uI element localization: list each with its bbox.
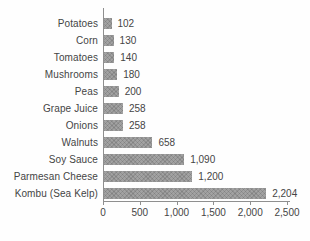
bar-row: Peas200 xyxy=(0,83,310,100)
category-label: Walnuts xyxy=(0,137,98,148)
bar-row: Kombu (Sea Kelp)2,204 xyxy=(0,185,310,202)
category-label: Peas xyxy=(0,86,98,97)
bar xyxy=(104,154,184,165)
bar-track: 258 xyxy=(104,120,310,131)
value-label: 258 xyxy=(129,103,146,114)
bar xyxy=(104,35,114,46)
y-axis-line xyxy=(103,8,104,201)
category-label: Soy Sauce xyxy=(0,154,98,165)
bar xyxy=(104,86,119,97)
x-tick-mark xyxy=(213,201,214,205)
x-tick-mark xyxy=(140,201,141,205)
x-tick-mark xyxy=(287,201,288,205)
bar-row: Tomatoes140 xyxy=(0,49,310,66)
value-label: 180 xyxy=(123,69,140,80)
bar-row: Parmesan Cheese1,200 xyxy=(0,168,310,185)
bar-track: 102 xyxy=(104,18,310,29)
value-label: 102 xyxy=(118,18,135,29)
category-label: Parmesan Cheese xyxy=(0,171,98,182)
x-tick-label: 2,500 xyxy=(274,207,299,218)
bar-rows: Potatoes102Corn130Tomatoes140Mushrooms18… xyxy=(0,15,310,202)
bar-track: 180 xyxy=(104,69,310,80)
bar xyxy=(104,171,192,182)
x-tick-label: 1,000 xyxy=(164,207,189,218)
value-label: 200 xyxy=(125,86,142,97)
bar xyxy=(104,69,117,80)
category-label: Mushrooms xyxy=(0,69,98,80)
bar-track: 2,204 xyxy=(104,188,310,199)
bar-row: Potatoes102 xyxy=(0,15,310,32)
x-tick-mark xyxy=(177,201,178,205)
value-label: 130 xyxy=(120,35,137,46)
bar xyxy=(104,103,123,114)
x-tick-label: 500 xyxy=(131,207,148,218)
category-label: Grape Juice xyxy=(0,103,98,114)
value-label: 2,204 xyxy=(272,188,297,199)
bar xyxy=(104,137,152,148)
bar-track: 1,090 xyxy=(104,154,310,165)
bar-track: 130 xyxy=(104,35,310,46)
bar xyxy=(104,120,123,131)
bar-track: 200 xyxy=(104,86,310,97)
bar-row: Soy Sauce1,090 xyxy=(0,151,310,168)
bar-chart: Potatoes102Corn130Tomatoes140Mushrooms18… xyxy=(0,0,310,241)
bar-row: Onions258 xyxy=(0,117,310,134)
value-label: 140 xyxy=(120,52,137,63)
bar-track: 1,200 xyxy=(104,171,310,182)
bar-row: Walnuts658 xyxy=(0,134,310,151)
x-axis-line xyxy=(103,201,290,202)
bar xyxy=(104,188,266,199)
x-tick-mark xyxy=(103,201,104,205)
x-tick-label: 0 xyxy=(100,207,106,218)
bar-row: Mushrooms180 xyxy=(0,66,310,83)
category-label: Onions xyxy=(0,120,98,131)
x-tick-label: 1,500 xyxy=(201,207,226,218)
bar-track: 658 xyxy=(104,137,310,148)
bar xyxy=(104,52,114,63)
value-label: 1,200 xyxy=(198,171,223,182)
x-tick-label: 2,000 xyxy=(238,207,263,218)
value-label: 658 xyxy=(158,137,175,148)
x-tick-mark xyxy=(250,201,251,205)
bar-track: 258 xyxy=(104,103,310,114)
bar-row: Corn130 xyxy=(0,32,310,49)
value-label: 1,090 xyxy=(190,154,215,165)
category-label: Potatoes xyxy=(0,18,98,29)
category-label: Tomatoes xyxy=(0,52,98,63)
bar xyxy=(104,18,112,29)
category-label: Kombu (Sea Kelp) xyxy=(0,188,98,199)
value-label: 258 xyxy=(129,120,146,131)
bar-row: Grape Juice258 xyxy=(0,100,310,117)
bar-track: 140 xyxy=(104,52,310,63)
category-label: Corn xyxy=(0,35,98,46)
